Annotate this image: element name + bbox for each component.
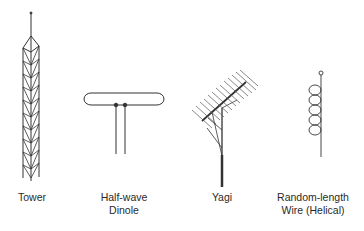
tower-label-line-1: Tower: [18, 191, 46, 204]
dipole-label-line-2: Dinole: [101, 204, 148, 217]
yagi-antenna-icon: [192, 70, 258, 187]
random-wire-label: Random-length Wire (Helical): [277, 191, 349, 217]
half-wave-dipole-antenna-icon: [84, 93, 164, 154]
helical-wire-antenna-icon: [309, 71, 323, 157]
yagi-label: Yagi: [212, 191, 232, 204]
tower-label: Tower: [18, 191, 46, 204]
random-wire-label-line-2: Wire (Helical): [277, 204, 349, 217]
tower-antenna-icon: [23, 12, 39, 181]
yagi-label-line-1: Yagi: [212, 191, 232, 204]
dipole-label-line-1: Half-wave: [101, 191, 148, 204]
half-wave-dipole-label: Half-wave Dinole: [101, 191, 148, 217]
random-wire-label-line-1: Random-length: [277, 191, 349, 204]
